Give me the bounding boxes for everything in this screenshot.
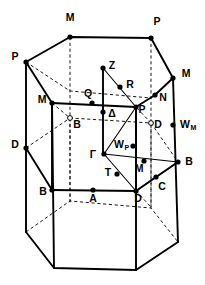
label-T: T <box>105 166 112 178</box>
point-T <box>114 171 119 176</box>
label-D-lower: D <box>134 192 142 204</box>
point-C <box>153 174 158 179</box>
label-B-right: B <box>185 155 193 167</box>
point-P-left <box>23 59 28 64</box>
wedge-slant-edges <box>26 62 178 207</box>
label-Gamma: Γ <box>90 148 97 160</box>
label-P-inner: P <box>138 103 145 115</box>
point-B-hidden <box>68 116 73 121</box>
label-D-hidden: D <box>154 118 162 130</box>
label-WP: WP <box>114 138 129 151</box>
point-N <box>152 92 157 97</box>
label-M-right: M <box>182 67 191 79</box>
label-M-top: M <box>66 11 75 23</box>
hidden-bottom-hexagon-back-icon <box>26 201 178 242</box>
line-Gamma-B-icon <box>104 154 178 162</box>
edge-D-to-B-icon <box>26 148 52 190</box>
label-P-left: P <box>11 50 18 62</box>
label-C: C <box>158 180 166 192</box>
label-Q: Q <box>84 87 92 99</box>
brillouin-zone-figure: MPPMZRQNMPΔBDWMDWPΓBMTCBAD <box>0 0 205 285</box>
point-R <box>117 84 122 89</box>
point-Delta <box>100 109 105 114</box>
label-Z: Z <box>109 59 116 71</box>
point-Gamma <box>101 151 106 156</box>
label-M-innerleft: M <box>38 93 47 105</box>
label-N: N <box>159 91 167 103</box>
point-P-topright <box>148 35 153 40</box>
point-WM <box>170 122 175 127</box>
point-B-right <box>175 159 180 164</box>
label-M-lower: M <box>135 162 144 174</box>
edge-D-to-Bhidden-icon <box>26 118 70 148</box>
point-M-right <box>170 75 175 80</box>
label-A: A <box>89 192 97 204</box>
high-symmetry-points <box>23 34 180 193</box>
point-WP <box>130 143 135 148</box>
label-Delta: Δ <box>108 107 116 119</box>
label-P-topright: P <box>153 15 160 27</box>
point-D-hidden <box>149 121 154 126</box>
point-Z <box>100 65 105 70</box>
label-B-hidden: B <box>73 118 81 130</box>
point-Q <box>89 100 94 105</box>
point-B-left <box>49 187 54 192</box>
outer-bottom-hexagon-front-icon <box>26 232 178 270</box>
point-M-innerleft <box>49 100 54 105</box>
label-R: R <box>126 78 134 90</box>
label-B-left: B <box>39 185 47 197</box>
label-WM: WM <box>180 118 196 131</box>
point-D-left <box>23 145 28 150</box>
point-M-top <box>67 34 72 39</box>
label-D-left: D <box>11 138 19 150</box>
